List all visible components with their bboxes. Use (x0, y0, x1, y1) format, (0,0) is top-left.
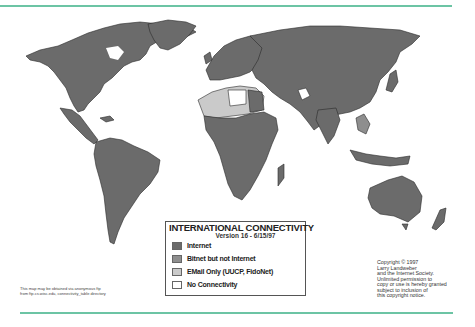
map-legend: INTERNATIONAL CONNECTIVITY Version 16 - … (165, 221, 306, 296)
egypt (248, 90, 264, 112)
greenland (148, 20, 196, 50)
new-zealand (432, 208, 446, 230)
swatch-bitnet (172, 255, 182, 263)
bottom-divider (20, 312, 453, 314)
legend-item-email: EMail Only (UUCP, FidoNet) (169, 265, 302, 278)
legend-label: Internet (187, 242, 211, 249)
legend-item-bitnet: Bitnet but not Internet (169, 252, 302, 265)
legend-label: Bitnet but not Internet (187, 255, 256, 262)
legend-version: Version 16 - 6/15/97 (189, 232, 302, 239)
ftp-note: This map may be obtained via anonymous f… (20, 286, 106, 296)
madagascar (278, 164, 284, 186)
africa-south (204, 112, 278, 200)
copyright-notice: Copyright © 1997 Larry Landweber and the… (377, 260, 447, 299)
legend-label: EMail Only (UUCP, FidoNet) (187, 268, 273, 275)
south-america (94, 138, 160, 244)
southeast-asia (356, 114, 370, 134)
japan (386, 70, 398, 92)
swatch-internet (172, 242, 182, 250)
legend-item-no-connectivity: No Connectivity (169, 278, 302, 291)
libya (228, 90, 246, 106)
legend-item-internet: Internet (169, 239, 302, 252)
legend-label: No Connectivity (187, 281, 237, 288)
indonesia (350, 150, 410, 166)
australia (368, 176, 422, 222)
central-america (60, 108, 98, 144)
legend-title: INTERNATIONAL CONNECTIVITY (169, 223, 302, 232)
caribbean (100, 116, 114, 122)
swatch-no-connectivity (172, 281, 182, 289)
india (316, 108, 340, 144)
swatch-email (172, 268, 182, 276)
tasmania (402, 224, 408, 230)
